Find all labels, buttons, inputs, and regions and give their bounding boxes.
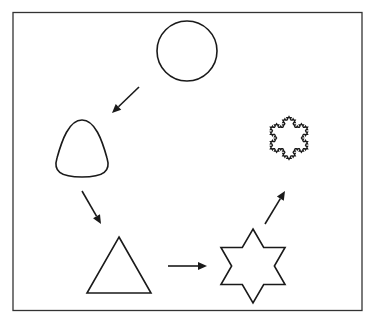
diagram-canvas xyxy=(0,0,375,321)
koch-snowflake-shape xyxy=(270,117,307,160)
arrowhead-icon xyxy=(277,191,285,201)
arrow-circle-to-rounded-triangle xyxy=(118,87,139,107)
arrowhead-icon xyxy=(198,262,207,270)
triangle-shape xyxy=(87,237,151,293)
arrow-hexagram-to-koch-snowflake xyxy=(265,199,280,224)
hexagram-shape xyxy=(221,229,285,303)
circle-shape xyxy=(157,21,217,81)
arrows-group xyxy=(82,87,285,270)
rounded-triangle-shape xyxy=(56,120,108,177)
arrow-rounded-triangle-to-triangle xyxy=(82,191,97,216)
